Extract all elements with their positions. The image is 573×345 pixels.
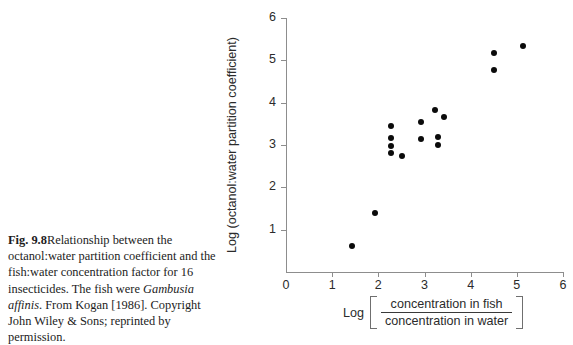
x-tick-mark: [471, 272, 472, 277]
fraction-numerator: concentration in fish: [381, 297, 512, 313]
data-point: [520, 43, 526, 49]
data-point: [491, 67, 497, 73]
data-point: [435, 142, 441, 148]
data-point: [399, 153, 405, 159]
data-point: [435, 134, 441, 140]
y-tick-mark: [281, 18, 286, 19]
y-tick-label: 4: [254, 95, 276, 109]
y-tick-mark: [281, 145, 286, 146]
x-tick-mark: [563, 272, 564, 277]
x-tick-mark: [425, 272, 426, 277]
data-point: [388, 150, 394, 156]
data-point: [491, 50, 497, 56]
y-tick-label: 6: [254, 10, 276, 24]
x-axis-title: Log concentration in fish concentration …: [343, 296, 523, 329]
left-bracket: [370, 296, 377, 329]
y-tick-mark: [281, 60, 286, 61]
figure-number: Fig. 9.8: [8, 233, 47, 247]
data-point: [432, 107, 438, 113]
x-axis-log-label: Log: [343, 306, 364, 320]
y-axis-line: [286, 18, 287, 272]
data-point: [418, 136, 424, 142]
right-bracket: [516, 296, 523, 329]
data-point: [441, 114, 447, 120]
data-point: [372, 210, 378, 216]
y-tick-label: 1: [254, 222, 276, 236]
x-tick-label: 1: [320, 278, 344, 292]
x-tick-mark: [378, 272, 379, 277]
data-point: [388, 123, 394, 129]
x-tick-label: 5: [505, 278, 529, 292]
x-tick-label: 4: [459, 278, 483, 292]
figure-caption: Fig. 9.8Relationship between the octanol…: [8, 232, 226, 345]
x-tick-label: 6: [551, 278, 573, 292]
data-point: [418, 119, 424, 125]
y-tick-mark: [281, 187, 286, 188]
fraction-denominator: concentration in water: [381, 313, 512, 328]
data-point: [388, 143, 394, 149]
x-axis-fraction: concentration in fish concentration in w…: [377, 296, 516, 329]
y-tick-mark: [281, 103, 286, 104]
y-tick-label: 2: [254, 179, 276, 193]
x-tick-mark: [517, 272, 518, 277]
x-tick-mark: [332, 272, 333, 277]
x-tick-label: 3: [413, 278, 437, 292]
data-point: [349, 243, 355, 249]
y-tick-label: 5: [254, 52, 276, 66]
y-tick-label: 3: [254, 137, 276, 151]
y-axis-title: Log (octanol:water partition coefficient…: [225, 37, 239, 253]
x-tick-label: 0: [274, 278, 298, 292]
x-tick-label: 2: [366, 278, 390, 292]
data-point: [388, 135, 394, 141]
y-tick-mark: [281, 230, 286, 231]
